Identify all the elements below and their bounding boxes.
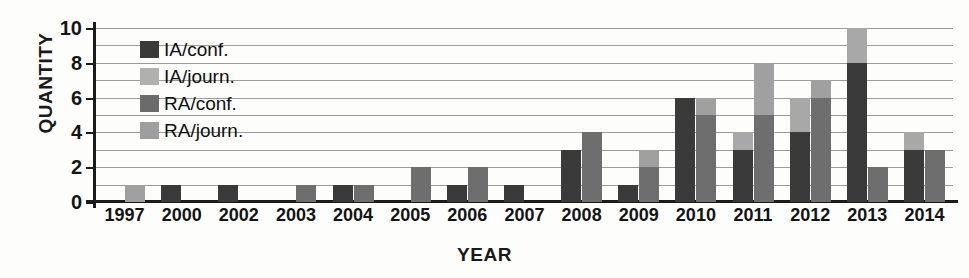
x-tick-label-2002: 2002 [210, 206, 267, 224]
bar-2013 [847, 28, 867, 202]
x-axis-title: YEAR [0, 244, 969, 266]
bar-segment-ia-journ- [733, 132, 753, 149]
y-tick-mark [86, 98, 95, 100]
x-tick-label-2011: 2011 [724, 206, 781, 224]
legend-label: RA/conf. [164, 94, 237, 113]
x-tick-label-2007: 2007 [496, 206, 553, 224]
x-tick-label-2005: 2005 [382, 206, 439, 224]
bar-2014 [904, 132, 924, 202]
bar-segment-ia-conf- [333, 185, 353, 202]
legend-item-ra-conf-: RA/conf. [140, 90, 243, 117]
legend-item-ra-journ-: RA/journ. [140, 117, 243, 144]
bar-2013 [868, 167, 888, 202]
bar-2012 [790, 98, 810, 202]
legend-swatch-icon [140, 122, 159, 139]
x-tick-label-2000: 2000 [153, 206, 210, 224]
legend-label: IA/conf. [164, 40, 228, 59]
bar-chart-figure: QUANTITY YEAR 0246810 199720002002200320… [0, 0, 969, 278]
y-tick-mark [86, 167, 95, 169]
bar-2000 [161, 185, 181, 202]
bar-2004 [354, 185, 374, 202]
bar-2012 [811, 80, 831, 202]
bar-segment-ia-conf- [790, 132, 810, 202]
x-tick-label-1997: 1997 [96, 206, 153, 224]
bar-segment-ia-conf- [161, 185, 181, 202]
chart-legend: IA/conf.IA/journ.RA/conf.RA/journ. [140, 36, 243, 144]
x-tick-label-2009: 2009 [610, 206, 667, 224]
y-tick-label: 0 [42, 192, 82, 212]
bar-segment-ra-journ- [639, 150, 659, 167]
bar-2008 [561, 150, 581, 202]
bar-segment-ia-conf- [218, 185, 238, 202]
y-tick-mark [86, 132, 95, 134]
bar-segment-ia-conf- [904, 150, 924, 202]
bar-segment-ra-conf- [868, 167, 888, 202]
y-tick-label: 6 [42, 88, 82, 108]
y-tick-mark [86, 202, 95, 204]
bar-segment-ra-journ- [754, 63, 774, 115]
bar-1997 [125, 185, 145, 202]
y-tick-label: 10 [42, 18, 82, 38]
bar-2002 [218, 185, 238, 202]
bar-segment-ra-conf- [696, 115, 716, 202]
legend-swatch-icon [140, 68, 159, 85]
gridline [96, 28, 953, 29]
legend-label: IA/journ. [164, 67, 235, 86]
bar-segment-ia-conf- [733, 150, 753, 202]
bar-segment-ia-conf- [847, 63, 867, 202]
bar-2006 [468, 167, 488, 202]
bar-segment-ra-conf- [582, 132, 602, 202]
x-tick-label-2004: 2004 [325, 206, 382, 224]
x-tick-label-2006: 2006 [439, 206, 496, 224]
bar-segment-ra-conf- [754, 115, 774, 202]
bar-segment-ia-journ- [790, 98, 810, 133]
bar-2003 [296, 185, 316, 202]
bar-segment-ia-conf- [561, 150, 581, 202]
bar-2011 [754, 63, 774, 202]
bar-segment-ra-conf- [925, 150, 945, 202]
legend-item-ia-conf-: IA/conf. [140, 36, 243, 63]
bar-2010 [696, 98, 716, 202]
x-tick-label-2013: 2013 [839, 206, 896, 224]
bar-segment-ra-conf- [296, 185, 316, 202]
bar-2010 [675, 98, 695, 202]
legend-label: RA/journ. [164, 121, 243, 140]
x-tick-label-2003: 2003 [267, 206, 324, 224]
legend-swatch-icon [140, 95, 159, 112]
bar-segment-ia-conf- [447, 185, 467, 202]
bar-2011 [733, 132, 753, 202]
bar-2014 [925, 150, 945, 202]
bar-segment-ia-journ- [847, 28, 867, 63]
y-tick-label: 8 [42, 53, 82, 73]
legend-swatch-icon [140, 41, 159, 58]
bar-segment-ia-conf- [504, 185, 524, 202]
legend-item-ia-journ-: IA/journ. [140, 63, 243, 90]
y-tick-label: 2 [42, 157, 82, 177]
bar-2009 [639, 150, 659, 202]
bar-segment-ra-conf- [354, 185, 374, 202]
bar-2004 [333, 185, 353, 202]
y-tick-mark [86, 63, 95, 65]
bar-segment-ia-conf- [618, 185, 638, 202]
bar-segment-ra-conf- [411, 167, 431, 202]
bar-segment-ra-conf- [811, 98, 831, 202]
bar-segment-ra-journ- [811, 80, 831, 97]
bar-segment-ra-conf- [468, 167, 488, 202]
bar-segment-ra-journ- [125, 185, 145, 202]
bar-segment-ia-conf- [675, 98, 695, 202]
bar-2008 [582, 132, 602, 202]
bar-segment-ra-journ- [696, 98, 716, 115]
x-tick-label-2012: 2012 [782, 206, 839, 224]
bar-2009 [618, 185, 638, 202]
y-tick-mark [86, 28, 95, 30]
x-tick-label-2014: 2014 [896, 206, 953, 224]
y-tick-label: 4 [42, 122, 82, 142]
bar-2007 [504, 185, 524, 202]
bar-segment-ia-journ- [904, 132, 924, 149]
bar-2005 [411, 167, 431, 202]
bar-segment-ra-conf- [639, 167, 659, 202]
bar-2006 [447, 185, 467, 202]
x-tick-label-2010: 2010 [667, 206, 724, 224]
x-tick-label-2008: 2008 [553, 206, 610, 224]
